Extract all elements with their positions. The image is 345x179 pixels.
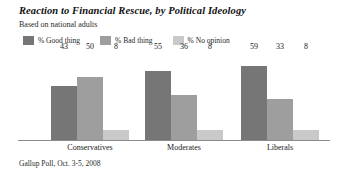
legend-item-bad-thing: % Bad thing	[100, 36, 153, 45]
bar-rect[interactable]	[197, 130, 223, 140]
bar-rect[interactable]	[103, 130, 129, 140]
bar-column[interactable]: 50	[77, 52, 103, 140]
bar-value-label: 8	[304, 42, 308, 51]
chart-figure: Reaction to Financial Rescue, by Politic…	[0, 0, 345, 179]
legend-label-bad-thing: % Bad thing	[115, 36, 153, 45]
chart-source-note: Gallup Poll, Oct. 3-5, 2008	[19, 159, 100, 168]
chart-baseline-axis	[18, 140, 330, 141]
category-label: Liberals	[267, 143, 293, 152]
legend-swatch-good-thing	[23, 36, 34, 45]
bar-value-label: 50	[86, 42, 94, 51]
chart-legend: % Good thing % Bad thing % No opinion	[23, 36, 230, 45]
bar-column[interactable]: 55	[145, 52, 171, 140]
bar-column[interactable]: 8	[197, 52, 223, 140]
chart-plot-area: 435085536859338	[18, 52, 330, 140]
bar-value-label: 36	[180, 42, 188, 51]
bar-rect[interactable]	[293, 130, 319, 140]
bar-rect[interactable]	[171, 95, 197, 140]
chart-title: Reaction to Financial Rescue, by Politic…	[19, 5, 246, 16]
bar-group: 43508	[51, 52, 129, 140]
bar-value-label: 33	[276, 42, 284, 51]
bar-value-label: 8	[114, 42, 118, 51]
bar-column[interactable]: 36	[171, 52, 197, 140]
bar-column[interactable]: 59	[241, 52, 267, 140]
bar-rect[interactable]	[77, 77, 103, 140]
legend-item-good-thing: % Good thing	[23, 36, 80, 45]
bar-rect[interactable]	[241, 66, 267, 140]
bar-value-label: 43	[60, 42, 68, 51]
bar-column[interactable]: 8	[293, 52, 319, 140]
chart-category-labels: ConservativesModeratesLiberals	[18, 143, 330, 157]
bar-rect[interactable]	[145, 71, 171, 140]
bar-value-label: 8	[208, 42, 212, 51]
category-label: Moderates	[167, 143, 201, 152]
category-label: Conservatives	[67, 143, 112, 152]
bar-rect[interactable]	[267, 99, 293, 140]
chart-subtitle: Based on national adults	[19, 20, 97, 29]
bar-rect[interactable]	[51, 86, 77, 140]
bar-column[interactable]: 33	[267, 52, 293, 140]
bar-column[interactable]: 43	[51, 52, 77, 140]
bar-value-label: 59	[250, 42, 258, 51]
legend-swatch-bad-thing	[100, 36, 111, 45]
bar-group: 55368	[145, 52, 223, 140]
bar-value-label: 55	[154, 42, 162, 51]
bar-group: 59338	[241, 52, 319, 140]
bar-column[interactable]: 8	[103, 52, 129, 140]
